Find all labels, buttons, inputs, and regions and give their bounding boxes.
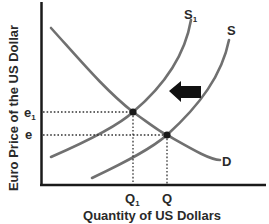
equilibrium-point-new	[129, 108, 136, 115]
y-axis-title: Euro Price of the US Dollar	[6, 25, 21, 191]
label-s: S	[227, 23, 236, 38]
label-q: Q	[162, 191, 172, 206]
x-axis-title: Quantity of US Dollars	[83, 208, 221, 223]
label-e: e	[25, 127, 32, 142]
label-s1: S1	[184, 7, 198, 24]
label-d: D	[222, 154, 231, 169]
diagram-canvas: S1 S D e1 e Q1 Q Quantity of US Dollars …	[0, 0, 269, 224]
equilibrium-point-original	[163, 131, 170, 138]
shift-left-arrow-icon	[169, 81, 201, 102]
supply-demand-diagram: S1 S D e1 e Q1 Q Quantity of US Dollars …	[0, 0, 269, 224]
label-q1: Q1	[125, 191, 140, 208]
label-e1: e1	[24, 105, 36, 122]
